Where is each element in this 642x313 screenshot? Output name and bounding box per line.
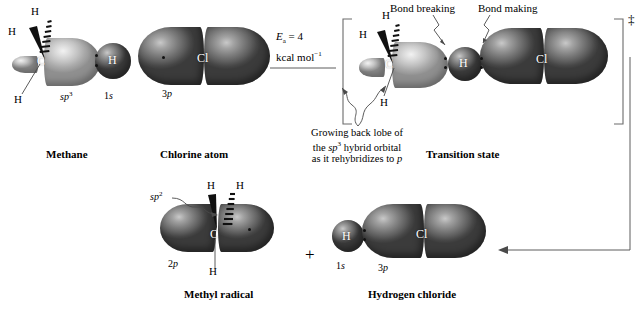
bond-breaking-label: Bond breaking xyxy=(390,3,455,15)
hydrogen-label: H xyxy=(108,53,117,68)
methyl-h-bottom-label: H xyxy=(209,266,217,278)
methane-sp3-orbital-label: sp3 xyxy=(60,90,72,102)
chlorine-3p-lobe-left xyxy=(138,27,204,85)
product-routing-arrow xyxy=(492,55,642,255)
methane-caption: Methane xyxy=(46,148,88,160)
annotation-line-2: the sp3 hybrid orbital xyxy=(282,139,432,153)
reaction-arrow xyxy=(270,58,342,78)
plus-sign: + xyxy=(305,245,315,265)
hcl-bond-electron-dot xyxy=(363,229,366,232)
transition-state-caption: Transition state xyxy=(426,148,499,160)
double-dagger-symbol: ‡ xyxy=(628,12,635,28)
bond-making-leader xyxy=(468,15,518,57)
hcl-bond-electron-dot xyxy=(363,238,366,241)
bond-electron-dot xyxy=(95,64,98,67)
orbital-reaction-diagram: C H H H H sp3 xyxy=(0,0,642,313)
hcl-3p-orbital-label: 3p xyxy=(378,262,388,273)
ts-h-top-label: H xyxy=(382,10,390,22)
methyl-sp2-orbital-label: sp2 xyxy=(150,190,162,202)
annotation-line-3: as it rehybridizes to p xyxy=(282,153,432,165)
hydrogen-chloride-caption: Hydrogen chloride xyxy=(368,288,456,300)
chlorine-label: Cl xyxy=(197,51,208,66)
methyl-h-top-left-label: H xyxy=(207,180,215,192)
methane-h-bottom-label: H xyxy=(14,94,22,106)
bond-making-dot xyxy=(480,57,483,60)
bond-breaking-dot xyxy=(444,66,447,69)
hcl-chlorine-label: Cl xyxy=(416,227,427,242)
methane-hashed-bond xyxy=(30,10,90,70)
methyl-h-top-right-label: H xyxy=(236,180,244,192)
hcl-cl-3p-lobe-left xyxy=(362,204,424,258)
hcl-hydrogen-label: H xyxy=(342,229,351,244)
ts-h-left-label: H xyxy=(359,29,367,41)
methyl-2p-orbital-label: 2p xyxy=(168,258,178,269)
bond-electron-dot xyxy=(95,54,98,57)
ts-transferring-h-label: H xyxy=(459,56,468,71)
hcl-1s-orbital-label: 1s xyxy=(336,260,345,271)
methane-1s-orbital-label: 1s xyxy=(104,90,113,101)
hcl-cl-3p-lobe-right xyxy=(424,204,486,258)
methane-h-top-label: H xyxy=(31,6,39,18)
bond-making-dot xyxy=(480,66,483,69)
methyl-sp2-leader xyxy=(172,194,234,224)
methyl-radical-caption: Methyl radical xyxy=(184,288,253,300)
chlorine-3p-lobe-right xyxy=(204,27,270,85)
chlorine-3p-orbital-label: 3p xyxy=(162,88,172,99)
methane-h-left-label: H xyxy=(8,26,16,38)
chlorine-atom-group: Cl 3p Chlorine atom xyxy=(138,0,273,140)
annotation-leader-right xyxy=(352,78,432,133)
chlorine-caption: Chlorine atom xyxy=(160,148,228,160)
methane-group: C H H H H sp3 xyxy=(0,0,150,140)
bond-making-label: Bond making xyxy=(478,3,538,15)
bond-breaking-dot xyxy=(444,57,447,60)
unpaired-electron-dot xyxy=(162,56,165,59)
